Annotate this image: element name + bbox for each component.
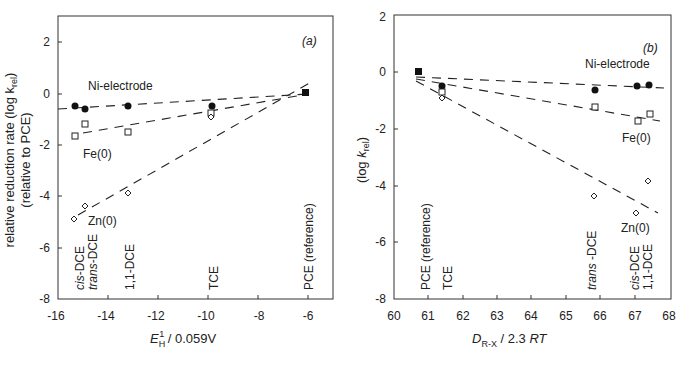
data-point (209, 103, 216, 110)
series-label-zn-b: Zn(0) (621, 221, 650, 235)
data-point (592, 104, 598, 110)
panel-a: 2 0 -2 -4 -6 -8 -16 -14 -12 -10 -8 -6 EH… (2, 16, 333, 349)
x-tick-label: -8 (254, 309, 265, 323)
data-point (71, 216, 77, 222)
series-zn-a (71, 114, 214, 222)
fit-line-fe-b (416, 79, 660, 121)
compound-label-cis-dce: cis-DCE (73, 246, 87, 290)
compound-labels-b: PCE (reference) TCE trans -DCE cis-DCE 1… (419, 203, 655, 290)
series-ni-b (415, 68, 653, 94)
y-tick-label: 2 (379, 10, 386, 24)
x-tick-label: -12 (147, 309, 165, 323)
y-tick-label: -8 (39, 292, 50, 306)
fit-lines-b (416, 77, 664, 213)
data-point-reference (415, 68, 422, 75)
y-tick-label: -4 (39, 189, 50, 203)
y-tick-label: -6 (39, 241, 50, 255)
data-point (439, 95, 445, 101)
compound-label-11-dce: 1,1-DCE (123, 244, 137, 290)
y-axis-title-a: relative reduction rate (log krel) (rela… (2, 73, 33, 248)
panel-b: 2 0 -2 -4 -6 -8 60 61 62 63 64 65 66 67 … (354, 10, 676, 349)
x-tick-label: -6 (303, 309, 314, 323)
x-tick-label: 65 (559, 309, 573, 323)
series-label-fe-a: Fe(0) (83, 147, 112, 161)
x-tick-label: 62 (456, 309, 470, 323)
compound-label-cis-dce: cis-DCE (628, 246, 642, 290)
y-tick-label: 0 (379, 65, 386, 79)
x-tick-label: 67 (628, 309, 642, 323)
data-point (72, 133, 78, 139)
panel-label-b: (b) (643, 41, 658, 55)
data-point (592, 87, 599, 94)
fit-line-ni-a (58, 94, 308, 109)
fit-line-zn-b (416, 81, 658, 213)
x-tick-label: 60 (387, 309, 401, 323)
compound-label-tce: TCE (441, 266, 455, 290)
x-axis-title-a: EH1 / 0.059V (150, 329, 217, 349)
compound-label-pce: PCE (reference) (419, 203, 433, 290)
x-tick-label: 68 (662, 309, 676, 323)
x-tick-labels-a: -16 -14 -12 -10 -8 -6 (47, 309, 313, 323)
compound-label-trans-dce: trans -DCE (585, 231, 599, 290)
x-tick-label: 61 (421, 309, 435, 323)
y-tick-label: 2 (43, 35, 50, 49)
series-fe-a (72, 110, 214, 139)
y-tick-label: -2 (375, 122, 386, 136)
fit-line-zn-a (78, 81, 313, 215)
x-axis-title-b: DR-X / 2.3 RT (472, 331, 548, 349)
series-label-ni-b: Ni-electrode (585, 57, 650, 71)
svg-text:relative reduction rate (log k: relative reduction rate (log krel) (2, 73, 19, 248)
x-tick-label: -16 (47, 309, 65, 323)
data-point (125, 103, 132, 110)
figure: 2 0 -2 -4 -6 -8 -16 -14 -12 -10 -8 -6 EH… (0, 0, 691, 366)
series-fe-b (439, 89, 653, 124)
y-tick-label: 0 (43, 87, 50, 101)
y-axis-title-b: (log krel) (354, 137, 371, 183)
compound-label-11-dce: 1,1-DCE (641, 244, 655, 290)
y-tick-label: -2 (39, 138, 50, 152)
panel-label-a: (a) (302, 34, 317, 48)
data-point (634, 83, 641, 90)
data-point (633, 210, 639, 216)
data-point (591, 193, 597, 199)
data-point (125, 129, 131, 135)
data-point (82, 121, 88, 127)
x-tick-label: 63 (490, 309, 504, 323)
data-point (82, 106, 89, 113)
compound-label-tce: TCE (207, 266, 221, 290)
data-point (72, 103, 79, 110)
data-point (647, 111, 653, 117)
fit-line-ni-b (416, 77, 664, 88)
y-tick-label: -6 (375, 235, 386, 249)
series-label-fe-b: Fe(0) (622, 131, 651, 145)
x-tick-label: -10 (197, 309, 215, 323)
svg-text:(log krel): (log krel) (354, 137, 371, 183)
compound-label-trans-dce: trans-DCE (86, 234, 100, 290)
data-point (635, 118, 641, 124)
data-point (439, 83, 446, 90)
data-point (645, 178, 651, 184)
data-point (646, 82, 653, 89)
y-tick-label: -4 (375, 179, 386, 193)
y-tick-labels-a: 2 0 -2 -4 -6 -8 (39, 35, 50, 306)
x-tick-label: 66 (593, 309, 607, 323)
data-point (125, 190, 131, 196)
y-tick-labels-b: 2 0 -2 -4 -6 -8 (375, 10, 386, 306)
series-zn-b (439, 95, 651, 216)
fit-line-fe-a (83, 94, 308, 133)
data-point (439, 89, 445, 95)
series-label-ni-a: Ni-electrode (88, 79, 153, 93)
y-tick-label: -8 (375, 292, 386, 306)
compound-label-pce: PCE (reference) (302, 203, 316, 290)
x-tick-label: -14 (97, 309, 115, 323)
svg-text:(relative to PCE): (relative to PCE) (18, 112, 33, 207)
series-label-zn-a: Zn(0) (88, 214, 117, 228)
data-point (82, 203, 88, 209)
data-point-reference (302, 89, 309, 96)
x-tick-labels-b: 60 61 62 63 64 65 66 67 68 (387, 309, 676, 323)
x-tick-label: 64 (524, 309, 538, 323)
